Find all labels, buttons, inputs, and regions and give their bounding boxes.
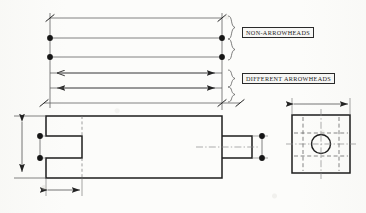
- brace-non-arrowheads: [228, 16, 235, 39]
- drawing-sheet: NON-ARROWHEADS DIFFERENT ARROWHEADS: [0, 0, 366, 213]
- brace-different-arrowheads: [228, 70, 235, 87]
- block-outline: [46, 116, 222, 178]
- label-non-arrowheads: NON-ARROWHEADS: [242, 27, 314, 38]
- brace-different-arrowheads-lower: [228, 87, 235, 102]
- dimension-boss-height: [252, 136, 268, 158]
- dimension-slot-depth: [46, 178, 82, 196]
- label-different-arrowheads: DIFFERENT ARROWHEADS: [242, 73, 335, 84]
- dimension-slot-height: [38, 136, 46, 158]
- square-end-view: [286, 109, 356, 179]
- brace-non-arrowheads-lower: [228, 39, 235, 60]
- dimension-overall-height: [14, 116, 46, 178]
- slotted-block-front-view: [46, 116, 258, 178]
